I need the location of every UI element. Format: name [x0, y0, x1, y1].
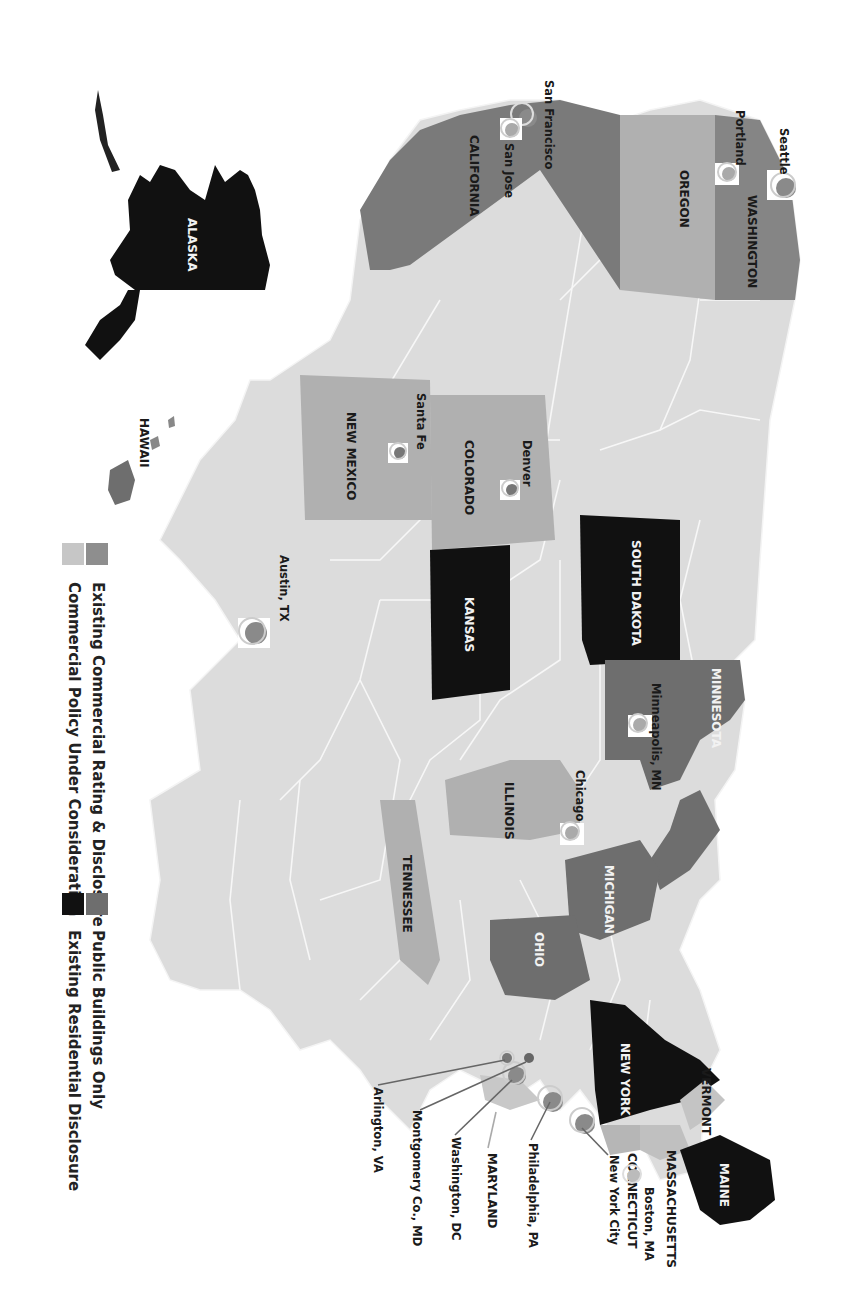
label-minnesota: MINNESOTA [709, 668, 723, 749]
label-san-jose: San Jose [502, 143, 516, 198]
legend-swatch-commercial [86, 543, 108, 565]
label-new-york: NEW YORK [618, 1043, 632, 1116]
state-new-mexico[interactable] [300, 375, 432, 520]
label-oregon: OREGON [677, 170, 691, 228]
label-denver: Denver [520, 440, 534, 487]
legend-swatch-consideration [62, 543, 84, 565]
marker-austin[interactable] [238, 618, 270, 648]
label-new-mexico: NEW MEXICO [344, 412, 358, 501]
label-washington: WASHINGTON [745, 195, 759, 288]
label-portland: Portland [733, 110, 747, 166]
label-boston: Boston, MA [642, 1187, 656, 1261]
label-illinois: ILLINOIS [502, 782, 516, 840]
alaska-aleutians [95, 90, 120, 172]
marker-minneapolis[interactable] [628, 714, 652, 737]
policy-map: WASHINGTON OREGON CALIFORNIA ALASKA HAWA… [0, 0, 847, 1314]
state-oregon[interactable] [620, 115, 715, 300]
legend-label-public: Public Buildings Only [89, 930, 107, 1109]
legend-swatch-public [86, 893, 108, 915]
label-california: CALIFORNIA [467, 135, 481, 217]
legend-label-commercial: Existing Commercial Rating & Disclosure [89, 582, 107, 927]
label-michigan: MICHIGAN [602, 865, 616, 934]
marker-new-york-city[interactable] [570, 1108, 595, 1134]
label-montgomery: Montgomery Co., MD [410, 1110, 424, 1246]
label-arlington: Arlington, VA [371, 1087, 385, 1173]
marker-denver[interactable] [500, 480, 520, 500]
alaska-panhandle [85, 290, 140, 360]
label-austin: Austin, TX [277, 555, 291, 622]
label-san-francisco: San Francisco [542, 80, 556, 169]
legend-label-residential: Existing Residential Disclosure [65, 930, 83, 1191]
label-santa-fe: Santa Fe [414, 393, 428, 450]
label-alaska: ALASKA [185, 218, 199, 272]
label-washington-dc: Washington, DC [449, 1137, 463, 1240]
label-hawaii: HAWAII [137, 418, 151, 468]
label-tennessee: TENNESSEE [400, 855, 414, 933]
legend-swatch-residential [62, 893, 84, 915]
label-seattle: Seattle [777, 128, 791, 175]
legend: Existing Commercial Rating & Disclosure … [62, 543, 108, 1191]
label-south-dakota: SOUTH DAKOTA [629, 540, 643, 646]
label-maryland: MARYLAND [485, 1153, 499, 1228]
marker-chicago[interactable] [560, 822, 584, 845]
label-kansas: KANSAS [462, 597, 476, 652]
label-colorado: COLORADO [462, 440, 476, 515]
label-ohio: OHIO [532, 932, 546, 967]
marker-santa-fe[interactable] [388, 443, 408, 463]
label-new-york-city: New York City [607, 1155, 621, 1245]
state-hawaii[interactable] [108, 460, 135, 505]
label-chicago: Chicago [573, 770, 587, 821]
marker-portland[interactable] [715, 163, 739, 185]
legend-label-consideration: Commercial Policy Under Consideration [65, 582, 83, 916]
state-colorado[interactable] [430, 395, 555, 550]
label-philadelphia: Philadelphia, PA [526, 1143, 540, 1248]
label-massachusetts: MASSACHUSETTS [664, 1150, 678, 1268]
marker-arlington[interactable] [500, 1051, 514, 1065]
marker-san-jose[interactable] [500, 118, 522, 140]
state-connecticut[interactable] [600, 1125, 640, 1155]
label-vermont: VERMONT [699, 1068, 713, 1136]
hawaii-islands [150, 416, 175, 450]
label-maine: MAINE [717, 1163, 731, 1207]
label-minneapolis: Minneapolis, MN [649, 683, 663, 791]
